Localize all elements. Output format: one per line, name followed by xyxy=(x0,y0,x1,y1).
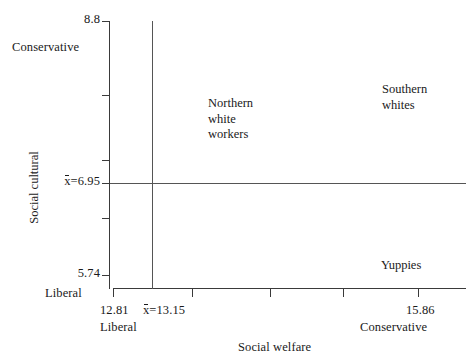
y-axis-line xyxy=(109,21,110,289)
annotation-southern-whites: Southern whites xyxy=(382,82,427,113)
x-axis-max-label: 15.86 xyxy=(406,303,435,318)
y-mean-reference-line xyxy=(109,183,466,184)
annotation-line: whites xyxy=(382,98,427,114)
y-axis-tick-mean xyxy=(102,183,110,184)
x-axis-tick xyxy=(270,288,271,297)
x-axis-title: Social welfare xyxy=(238,340,311,355)
x-mean-reference-line xyxy=(152,21,153,289)
x-axis-right-anchor-label: Conservative xyxy=(360,320,427,335)
x-axis-mean-label: x=13.15 xyxy=(143,303,185,318)
x-axis-tick xyxy=(192,288,193,297)
y-axis-max-label: 8.8 xyxy=(45,12,100,27)
annotation-line: white xyxy=(208,112,253,128)
y-axis-tick xyxy=(102,160,110,161)
annotation-yuppies: Yuppies xyxy=(381,258,421,274)
y-axis-tick xyxy=(102,21,110,22)
y-axis-mean-label: x=6.95 xyxy=(36,174,100,189)
x-axis-tick xyxy=(113,288,114,297)
annotation-line: workers xyxy=(208,127,253,143)
x-axis-tick xyxy=(418,288,419,297)
annotation-line: Northern xyxy=(208,96,253,112)
x-axis-line xyxy=(113,288,466,289)
annotation-northern-white-workers: Northern white workers xyxy=(208,96,253,143)
scatter-quadrant-chart: 8.8 Conservative x=6.95 5.74 Liberal Soc… xyxy=(0,0,470,362)
y-axis-title: Social cultural xyxy=(27,133,42,243)
y-axis-top-anchor-label: Conservative xyxy=(12,40,79,55)
y-axis-tick xyxy=(102,95,110,96)
x-axis-left-anchor-label: Liberal xyxy=(100,320,137,335)
annotation-line: Southern xyxy=(382,82,427,98)
y-axis-min-label: 5.74 xyxy=(45,266,100,281)
annotation-line: Yuppies xyxy=(381,258,421,274)
y-axis-tick xyxy=(102,218,110,219)
y-axis-tick xyxy=(102,275,110,276)
x-axis-tick xyxy=(343,288,344,297)
y-axis-bottom-anchor-label: Liberal xyxy=(45,286,82,301)
x-axis-min-label: 12.81 xyxy=(100,303,129,318)
